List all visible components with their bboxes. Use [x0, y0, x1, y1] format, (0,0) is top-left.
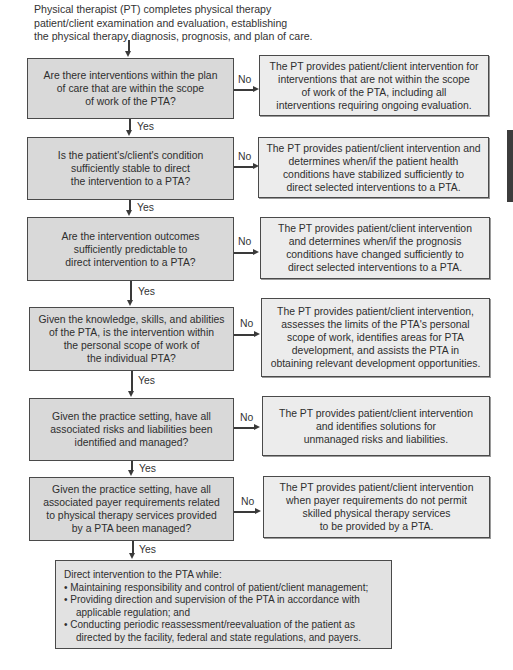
arrow-down-icon	[128, 391, 134, 397]
arrow-right-icon	[254, 424, 260, 430]
no-label: No	[238, 74, 251, 85]
arrow-right-icon	[254, 331, 260, 337]
arrow-right-icon	[253, 249, 259, 255]
decision-box-2: Is the patient's/client's condition suff…	[27, 137, 234, 200]
connector	[234, 89, 253, 91]
decision-text: Are the intervention outcomes sufficient…	[61, 230, 199, 269]
arrow-down-icon	[126, 130, 132, 136]
decision-box-4: Given the knowledge, skills, and abiliti…	[29, 307, 234, 371]
outcome-text: The PT provides patient/client intervent…	[279, 407, 473, 446]
connector	[234, 166, 253, 168]
no-label: No	[240, 412, 253, 423]
decision-box-1: Are there interventions within the plan …	[27, 58, 234, 119]
decision-box-3: Are the intervention outcomes sufficient…	[27, 217, 234, 281]
yes-label: Yes	[138, 286, 155, 297]
outcome-text: The PT provides patient/client intervent…	[278, 222, 472, 274]
arrow-right-icon	[255, 508, 261, 514]
final-action-box: Direct intervention to the PTA while: • …	[55, 560, 392, 649]
no-label: No	[240, 318, 253, 329]
final-bullet: • Maintaining responsibility and control…	[64, 582, 383, 595]
decision-box-5: Given the practice setting, have all ass…	[29, 398, 234, 461]
connector	[234, 252, 253, 254]
yes-label: Yes	[139, 544, 156, 555]
connector	[234, 334, 254, 336]
connector	[131, 371, 133, 392]
yes-label: Yes	[139, 463, 156, 474]
outcome-box-1: The PT provides patient/client intervent…	[259, 55, 489, 116]
outcome-box-2: The PT provides patient/client intervent…	[258, 137, 489, 198]
decision-text: Given the knowledge, skills, and abiliti…	[39, 313, 225, 365]
decision-text: Given the practice setting, have all ass…	[50, 410, 212, 449]
decision-text: Is the patient's/client's condition suff…	[58, 149, 203, 188]
yes-label: Yes	[137, 121, 154, 132]
outcome-box-3: The PT provides patient/client intervent…	[260, 217, 490, 279]
outcome-box-6: The PT provides patient/client intervent…	[263, 476, 490, 538]
intro-text: Physical therapist (PT) completes physic…	[34, 3, 334, 44]
outcome-text: The PT provides patient/client intervent…	[271, 305, 481, 370]
outcome-text: The PT provides patient/client intervent…	[280, 481, 474, 533]
intro-label: Physical therapist (PT) completes physic…	[34, 3, 313, 42]
outcome-box-5: The PT provides patient/client intervent…	[262, 396, 490, 456]
page-edge-tab	[507, 130, 513, 202]
decision-text: Are there interventions within the plan …	[44, 69, 218, 108]
arrow-down-icon	[128, 470, 134, 476]
final-bullet: • Providing direction and supervision of…	[64, 594, 383, 619]
final-heading: Direct intervention to the PTA while:	[64, 569, 383, 582]
outcome-text: The PT provides patient/client intervent…	[270, 60, 479, 112]
no-label: No	[238, 236, 251, 247]
final-bullet: • Conducting periodic reassessment/reeva…	[64, 619, 383, 644]
arrow-down-icon	[125, 51, 131, 57]
arrow-down-icon	[126, 210, 132, 216]
no-label: No	[238, 151, 251, 162]
decision-box-6: Given the practice setting, have all ass…	[29, 477, 234, 541]
decision-text: Given the practice setting, have all ass…	[43, 483, 220, 535]
arrow-down-icon	[127, 300, 133, 306]
no-label: No	[241, 496, 254, 507]
outcome-box-4: The PT provides patient/client intervent…	[261, 298, 490, 377]
connector	[234, 427, 254, 429]
connector	[130, 281, 132, 301]
yes-label: Yes	[137, 202, 154, 213]
yes-label: Yes	[138, 375, 155, 386]
arrow-down-icon	[129, 553, 135, 559]
connector	[234, 511, 255, 513]
outcome-text: The PT provides patient/client intervent…	[266, 142, 480, 194]
